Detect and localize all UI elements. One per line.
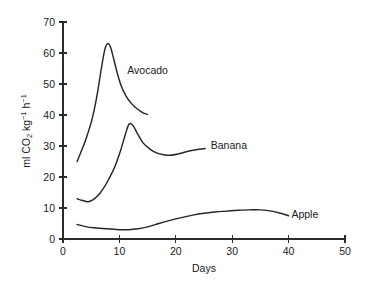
y-axis-title-superscript-2: −1 <box>19 94 28 102</box>
x-tick-label-50: 50 <box>339 245 351 257</box>
y-tick-label-0: 0 <box>49 233 55 245</box>
x-tick-label-0: 0 <box>60 245 66 257</box>
y-axis-title-prefix: ml CO <box>20 138 32 168</box>
y-axis-title-mid2: h <box>20 103 32 112</box>
series-label-avocado: Avocado <box>127 64 168 76</box>
series-line-banana <box>77 124 205 202</box>
svg-text:ml CO2 kg−1 h−1: ml CO2 kg−1 h−1 <box>19 94 35 168</box>
y-tick-label-50: 50 <box>43 78 55 90</box>
y-tick-label-20: 20 <box>43 171 55 183</box>
x-tick-label-10: 10 <box>114 245 126 257</box>
y-axis-tick-labels: 010203040506070 <box>43 16 55 245</box>
chart-canvas: 010203040506070 01020304050 AvocadoBanan… <box>0 0 365 286</box>
x-tick-label-30: 30 <box>226 245 238 257</box>
y-axis-title-superscript-1: −1 <box>19 111 28 119</box>
y-tick-label-30: 30 <box>43 140 55 152</box>
x-tick-label-20: 20 <box>170 245 182 257</box>
series-annotation-labels: AvocadoBananaApple <box>127 64 318 220</box>
respiration-rate-chart: 010203040506070 01020304050 AvocadoBanan… <box>0 0 365 286</box>
x-axis-tick-labels: 01020304050 <box>60 245 351 257</box>
series-line-avocado <box>77 44 148 162</box>
y-tick-label-10: 10 <box>43 202 55 214</box>
series-lines-group <box>77 44 289 230</box>
y-tick-label-40: 40 <box>43 109 55 121</box>
series-line-apple <box>77 210 289 230</box>
y-axis-title: ml CO2 kg−1 h−1 <box>19 94 35 168</box>
y-tick-label-60: 60 <box>43 47 55 59</box>
y-axis-title-mid: kg <box>20 120 32 134</box>
series-label-apple: Apple <box>291 208 318 220</box>
series-label-banana: Banana <box>211 139 247 151</box>
x-tick-label-40: 40 <box>283 245 295 257</box>
y-tick-label-70: 70 <box>43 16 55 28</box>
x-axis-title: Days <box>192 262 216 274</box>
